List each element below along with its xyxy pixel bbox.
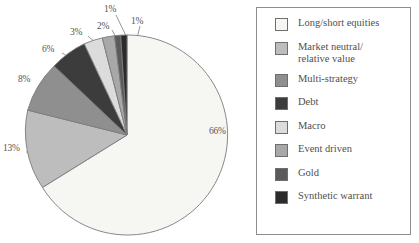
- legend-item-multi-strategy[interactable]: Multi-strategy: [275, 73, 405, 88]
- pie-value-label-6: 6%: [42, 44, 54, 54]
- pie-value-label-66: 66%: [209, 126, 226, 136]
- legend-item-long-short-equities[interactable]: Long/short equities: [275, 17, 405, 32]
- legend-item-label: Synthetic warrant: [298, 190, 372, 203]
- legend-item-debt[interactable]: Debt: [275, 96, 405, 111]
- legend-item-synthetic-warrant[interactable]: Synthetic warrant: [275, 190, 405, 205]
- legend-item-label: Macro: [298, 120, 325, 133]
- pie-chart-plot-area: 66% 13% 8% 6% 3% 2% 1% 1%: [0, 0, 248, 243]
- pie-value-label-1a: 1%: [104, 4, 116, 14]
- legend-item-event-driven[interactable]: Event driven: [275, 143, 405, 158]
- legend-item-label: Long/short equities: [298, 17, 379, 30]
- legend-swatch-icon: [275, 121, 288, 134]
- legend-swatch-icon: [275, 144, 288, 157]
- legend-item-label: Event driven: [298, 143, 352, 156]
- chart-legend: Long/short equities Market neutral/ rela…: [256, 7, 411, 235]
- legend-swatch-icon: [275, 74, 288, 87]
- legend-swatch-icon: [275, 18, 288, 31]
- legend-item-label: Market neutral/ relative value: [298, 41, 363, 66]
- legend-swatch-icon: [275, 168, 288, 181]
- legend-item-gold[interactable]: Gold: [275, 167, 405, 182]
- legend-item-label: Debt: [298, 96, 318, 109]
- pie-chart-figure: 66% 13% 8% 6% 3% 2% 1% 1% Long/short equ…: [0, 0, 419, 243]
- legend-swatch-icon: [275, 42, 288, 55]
- legend-swatch-icon: [275, 97, 288, 110]
- legend-item-label: Gold: [298, 167, 319, 180]
- pie-value-label-3: 3%: [70, 27, 82, 37]
- pie-chart-svg: [0, 0, 248, 243]
- pie-value-label-2: 2%: [97, 21, 109, 31]
- pie-value-label-1b: 1%: [131, 16, 143, 26]
- pie-value-label-8: 8%: [18, 74, 30, 84]
- legend-item-label: Multi-strategy: [298, 73, 358, 86]
- pie-slices: [25, 35, 227, 235]
- pie-value-label-13: 13%: [3, 143, 20, 153]
- legend-item-macro[interactable]: Macro: [275, 120, 405, 135]
- legend-item-list: Long/short equities Market neutral/ rela…: [275, 17, 405, 214]
- legend-item-market-neutral[interactable]: Market neutral/ relative value: [275, 41, 405, 66]
- legend-swatch-icon: [275, 191, 288, 204]
